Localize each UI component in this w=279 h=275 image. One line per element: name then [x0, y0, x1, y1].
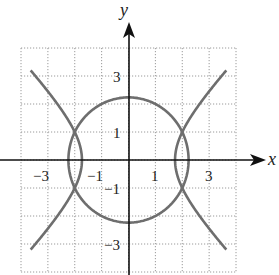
y-tick-label: 3 — [113, 69, 121, 85]
y-tick-label: −3 — [104, 237, 120, 253]
x-axis-label: x — [267, 149, 276, 169]
x-tick-label: −3 — [33, 168, 49, 184]
x-tick-label: 1 — [151, 168, 159, 184]
x-tick-label: −1 — [87, 168, 103, 184]
x-tick-label: 3 — [205, 168, 213, 184]
y-tick-label: −1 — [104, 181, 120, 197]
y-tick-label: 1 — [113, 125, 121, 141]
graph: x y −3 −1 1 3 3 1 −1 −3 — [0, 0, 279, 275]
y-axis-label: y — [118, 0, 128, 20]
